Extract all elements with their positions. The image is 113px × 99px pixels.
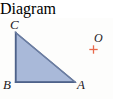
point-label-o: O [94,32,103,44]
vertex-label-a: A [77,78,85,91]
point-o-cross-icon [89,45,97,53]
vertex-label-b: B [3,78,11,91]
geometry-figure: C B A O [0,18,113,99]
vertex-label-c: C [10,18,19,31]
